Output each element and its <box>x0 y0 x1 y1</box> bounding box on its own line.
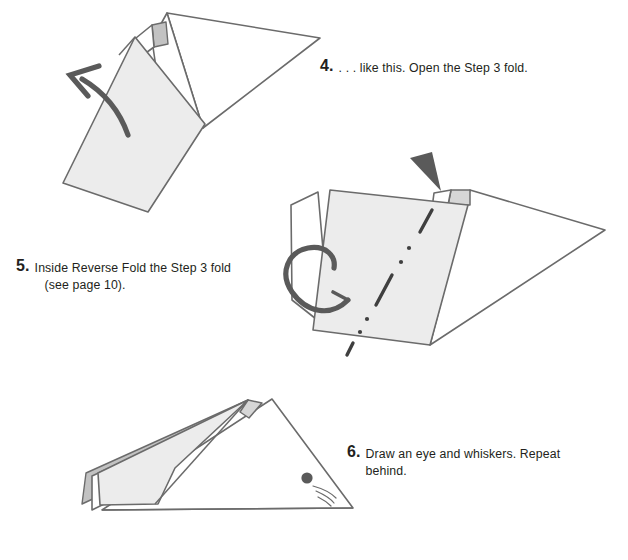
step6-back-layer-white <box>92 402 252 510</box>
step4-open-arrow <box>82 79 128 135</box>
step5-main-triangle <box>430 190 605 345</box>
step-5-text: Inside Reverse Fold the Step 3 fold (see… <box>35 258 231 293</box>
step5-top-tab <box>448 190 470 205</box>
step4-gray-flap <box>63 37 205 212</box>
step5-gray-panel <box>313 190 468 345</box>
step5-push-arrowhead <box>410 152 441 191</box>
step-5-text-line-1: Inside Reverse Fold the Step 3 fold <box>35 261 231 275</box>
step-4-text: . . . like this. Open the Step 3 fold. <box>339 58 528 77</box>
step6-diagram <box>82 399 353 510</box>
step-4-text-line-1: . . . like this. Open the Step 3 fold. <box>339 61 528 75</box>
step4-small-tab-dark <box>152 22 168 47</box>
step4-small-tab-white <box>136 25 154 58</box>
step5-fold-line <box>347 210 432 355</box>
step-4-caption: 4. . . . like this. Open the Step 3 fold… <box>320 58 600 77</box>
step6-eye <box>301 472 312 483</box>
step-6-text: Draw an eye and whiskers. Repeat behind. <box>366 444 561 479</box>
step-5-number: 5. <box>16 258 30 274</box>
step-6-number: 6. <box>347 444 361 460</box>
step4-open-arrowhead <box>70 66 99 96</box>
step5-diagram <box>286 152 605 355</box>
step5-wrap-arrow <box>286 248 348 311</box>
step-5-caption: 5. Inside Reverse Fold the Step 3 fold (… <box>16 258 266 293</box>
step4-flap-crease <box>119 37 135 55</box>
step-4-number: 4. <box>320 58 334 74</box>
step4-diagram <box>63 13 320 212</box>
step6-main-triangle <box>102 399 353 510</box>
step6-gray-wing <box>98 400 248 505</box>
step6-wing-crease <box>155 400 248 504</box>
step-6-text-line-1: Draw an eye and whiskers. Repeat <box>366 447 561 461</box>
step6-bottom-edge <box>102 508 353 510</box>
step4-main-triangle <box>167 13 320 128</box>
step6-whiskers <box>313 486 336 506</box>
step4-under-layer <box>152 13 203 128</box>
step5-top-tab-white <box>432 190 451 208</box>
step6-wing-tab <box>240 400 262 418</box>
step-6-caption: 6. Draw an eye and whiskers. Repeat behi… <box>347 444 602 479</box>
step-6-text-line-2: behind. <box>366 463 561 480</box>
step-5-text-line-2: (see page 10). <box>45 277 231 294</box>
step6-back-layer-dark <box>82 400 248 504</box>
step5-under-layer <box>291 192 330 330</box>
step5-wrap-arrow-tail <box>333 292 348 300</box>
